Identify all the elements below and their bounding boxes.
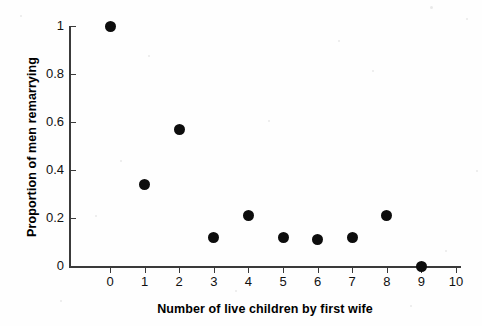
data-point [312,234,323,245]
x-tick-label: 0 [95,275,125,289]
data-point [347,232,358,243]
x-tick-mark [179,268,180,273]
x-tick-label: 6 [303,275,333,289]
scan-speckle [120,160,122,162]
x-tick-mark [214,268,215,273]
y-tick-label-text: 1 [20,19,64,32]
scan-speckle [338,40,340,42]
y-tick-mark [70,74,76,75]
x-axis-title: Number of live children by first wife [69,302,461,316]
data-point [139,179,150,190]
x-tick-mark [456,268,457,273]
x-tick-label: 10 [441,275,471,289]
scan-speckle [235,290,237,292]
x-tick-mark [352,268,353,273]
x-tick-mark [318,268,319,273]
x-tick-label: 2 [164,275,194,289]
data-point [278,232,289,243]
x-tick-mark [387,268,388,273]
x-tick-mark [145,268,146,273]
x-tick-mark [110,268,111,273]
data-point [243,210,254,221]
data-point [174,124,185,135]
scan-speckle [95,215,97,217]
data-point [416,261,427,272]
scan-speckle [445,250,447,252]
y-axis-line [69,26,71,268]
y-tick-mark [70,170,76,171]
scan-speckle [60,300,62,302]
x-tick-label: 9 [406,275,436,289]
x-tick-label: 3 [199,275,229,289]
x-tick-label: 1 [130,275,160,289]
scan-speckle [148,55,150,57]
scan-speckle [268,120,270,122]
y-tick-label: 1 [20,19,64,32]
y-tick-mark [70,122,76,123]
scan-speckle [430,6,433,9]
data-point [208,232,219,243]
x-tick-mark [283,268,284,273]
scan-speckle [476,170,478,172]
y-tick-mark [70,26,76,27]
y-tick-mark [70,266,76,267]
x-tick-mark [248,268,249,273]
scan-speckle [20,15,22,17]
y-tick-mark [70,218,76,219]
x-tick-label: 7 [337,275,367,289]
x-tick-label: 5 [268,275,298,289]
data-point [381,210,392,221]
y-axis-title: Proportion of men remarrying [25,32,39,262]
x-tick-label: 4 [233,275,263,289]
scatter-chart-figure: 00.20.40.60.81 012345678910 Number of li… [0,0,482,326]
data-point [105,21,116,32]
x-tick-label: 8 [372,275,402,289]
scan-speckle [466,18,468,20]
x-axis-line [69,266,461,268]
scan-speckle [372,70,374,72]
